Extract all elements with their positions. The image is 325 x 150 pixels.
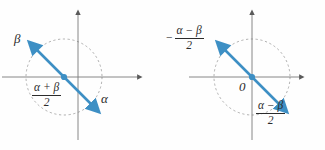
neg-half-diff-numerator: α − β [175, 25, 204, 39]
beta-label: β [14, 32, 20, 45]
negative-half-difference-label: − α − β 2 [166, 25, 204, 51]
half-sum-label: α + β 2 [32, 82, 61, 108]
half-sum-numerator: α + β [32, 82, 61, 96]
diagram-left-graphics [0, 0, 163, 150]
diagram-half-difference: − α − β 2 α − β 2 0 [163, 0, 325, 150]
half-diff-denominator: 2 [256, 114, 285, 127]
half-sum-denominator: 2 [32, 96, 61, 109]
center-dot [249, 74, 255, 80]
center-dot [61, 74, 67, 80]
origin-label: 0 [239, 80, 246, 93]
half-diff-numerator: α − β [256, 100, 285, 114]
minus-sign: − [166, 32, 173, 44]
half-difference-label: α − β 2 [256, 100, 285, 126]
diagram-half-sum: β α α + β 2 [0, 0, 163, 150]
alpha-label: α [101, 92, 108, 105]
diagram-right-graphics [163, 0, 325, 150]
figure-canvas: β α α + β 2 [0, 0, 325, 150]
neg-half-diff-denominator: 2 [175, 39, 204, 52]
